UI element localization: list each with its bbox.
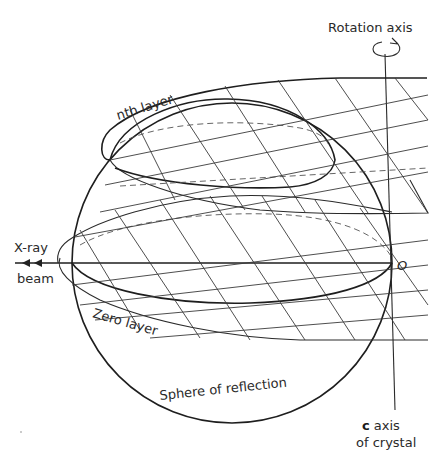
stray-dot bbox=[20, 431, 22, 433]
nth-layer-circle-hidden bbox=[120, 123, 328, 145]
zero-layer-plane-lower-edge bbox=[59, 258, 428, 340]
sphere-label: Sphere of reflection bbox=[159, 375, 288, 403]
rotation-axis-label: Rotation axis bbox=[328, 20, 413, 35]
rotating-crystal-diagram: Rotation axis nth layer X-ray beam O Zer… bbox=[0, 0, 448, 463]
nth-layer-label: nth layer bbox=[114, 91, 175, 123]
beam-label: beam bbox=[17, 271, 54, 286]
rotation-axis-line bbox=[385, 54, 395, 410]
c-axis-rest: axis bbox=[370, 418, 400, 433]
x-ray-label: X-ray bbox=[14, 240, 48, 255]
c-axis-label: c axis bbox=[362, 418, 400, 433]
of-crystal-label: of crystal bbox=[356, 435, 416, 450]
lattice-grid-rising bbox=[72, 95, 428, 338]
rotation-arrow-icon bbox=[373, 38, 400, 56]
origin-label: O bbox=[397, 258, 407, 273]
c-axis-bold: c bbox=[362, 418, 370, 433]
